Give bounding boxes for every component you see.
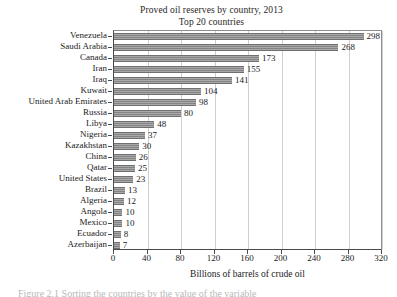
category-label-united-states: United States: [59, 174, 107, 183]
bar-value-label: 80: [184, 109, 193, 118]
category-label-iran: Iran: [93, 64, 108, 73]
category-label-libya: Libya: [86, 119, 107, 128]
bar-row: 8: [114, 229, 381, 240]
bar-qatar: [114, 165, 135, 172]
bar-value-label: 26: [139, 153, 148, 162]
figure-oil-reserves-bar-chart: Proved oil reserves by country, 2013 Top…: [0, 0, 397, 297]
y-tickmark: [108, 190, 112, 191]
y-tickmark: [108, 146, 112, 147]
bar-value-label: 23: [136, 175, 145, 184]
bar-row: 173: [114, 53, 381, 64]
y-tickmark: [108, 102, 112, 103]
category-label-algeria: Algeria: [80, 196, 107, 205]
y-tickmark: [108, 36, 112, 37]
y-tickmark: [108, 124, 112, 125]
y-tickmark: [108, 201, 112, 202]
category-label-azerbaijan: Azerbaijan: [68, 240, 107, 249]
x-tick-label-80: 80: [176, 253, 185, 264]
chart-title: Proved oil reserves by country, 2013: [0, 4, 397, 16]
bar-value-label: 141: [235, 76, 249, 85]
y-tickmark: [108, 168, 112, 169]
y-tickmark: [108, 113, 112, 114]
category-label-kazakhstan: Kazakhstan: [65, 141, 107, 150]
gridline-320: [382, 31, 383, 249]
bar-azerbaijan: [114, 242, 120, 249]
bar-value-label: 30: [142, 142, 151, 151]
x-tick-label-240: 240: [307, 253, 321, 264]
bar-russia: [114, 110, 181, 117]
category-label-iraq: Iraq: [93, 75, 108, 84]
bar-row: 98: [114, 97, 381, 108]
category-label-ecuador: Ecuador: [77, 229, 107, 238]
bar-value-label: 98: [199, 98, 208, 107]
category-label-russia: Russia: [83, 108, 107, 117]
y-tickmark: [108, 58, 112, 59]
bar-row: 80: [114, 108, 381, 119]
bar-row: 104: [114, 86, 381, 97]
bar-value-label: 8: [124, 230, 129, 239]
bar-row: 12: [114, 196, 381, 207]
x-axis-tick-labels: 04080120160200240280320: [0, 253, 397, 267]
y-tickmark: [108, 223, 112, 224]
category-label-china: China: [86, 152, 108, 161]
category-label-brazil: Brazil: [85, 185, 107, 194]
category-label-mexico: Mexico: [80, 218, 108, 227]
y-tickmark: [108, 80, 112, 81]
bar-china: [114, 154, 136, 161]
y-tickmark: [108, 91, 112, 92]
x-tick-label-120: 120: [207, 253, 221, 264]
bar-value-label: 13: [128, 186, 137, 195]
y-tickmark: [108, 245, 112, 246]
x-tick-label-280: 280: [341, 253, 355, 264]
bar-row: 155: [114, 64, 381, 75]
x-tick-label-40: 40: [142, 253, 151, 264]
bar-value-label: 12: [127, 197, 136, 206]
bar-row: 298: [114, 31, 381, 42]
category-label-nigeria: Nigeria: [80, 130, 107, 139]
bar-row: 13: [114, 185, 381, 196]
category-label-qatar: Qatar: [87, 163, 107, 172]
y-tickmark: [108, 179, 112, 180]
plot-area: 2982681731551411049880483730262523131210…: [113, 30, 382, 250]
y-tickmark: [108, 69, 112, 70]
bar-iraq: [114, 77, 232, 84]
bar-row: 10: [114, 207, 381, 218]
bar-rows: 2982681731551411049880483730262523131210…: [114, 31, 381, 249]
y-tickmark: [108, 157, 112, 158]
bar-nigeria: [114, 132, 145, 139]
bar-value-label: 173: [262, 54, 276, 63]
x-axis-title: Billions of barrels of crude oil: [113, 268, 382, 280]
bar-value-label: 104: [204, 87, 218, 96]
bar-brazil: [114, 187, 125, 194]
bar-value-label: 10: [125, 208, 134, 217]
y-tickmark: [108, 234, 112, 235]
bar-value-label: 37: [148, 131, 157, 140]
category-label-kuwait: Kuwait: [81, 86, 108, 95]
bar-row: 37: [114, 130, 381, 141]
bar-kazakhstan: [114, 143, 139, 150]
x-tick-label-160: 160: [240, 253, 254, 264]
bar-libya: [114, 121, 154, 128]
bar-ecuador: [114, 231, 121, 238]
bar-value-label: 155: [247, 65, 261, 74]
category-label-angola: Angola: [81, 207, 108, 216]
y-tickmark: [108, 47, 112, 48]
bar-value-label: 298: [367, 32, 381, 41]
bar-row: 26: [114, 152, 381, 163]
bar-row: 25: [114, 163, 381, 174]
bar-value-label: 25: [138, 164, 147, 173]
y-tickmark: [108, 135, 112, 136]
bar-value-label: 48: [157, 120, 166, 129]
bar-iran: [114, 66, 244, 73]
bar-algeria: [114, 198, 124, 205]
y-axis-category-labels: VenezuelaSaudi ArabiaCanadaIranIraqKuwai…: [0, 30, 111, 250]
bar-united-states: [114, 176, 133, 183]
caption-remnant: Figure 2.1 Sorting the countries by the …: [18, 288, 348, 297]
bar-row: 10: [114, 218, 381, 229]
y-tickmark: [108, 212, 112, 213]
category-label-united-arab-emirates: United Arab Emirates: [29, 97, 107, 106]
bar-row: 268: [114, 42, 381, 53]
bar-saudi-arabia: [114, 44, 338, 51]
category-label-venezuela: Venezuela: [70, 31, 107, 40]
bar-canada: [114, 55, 259, 62]
